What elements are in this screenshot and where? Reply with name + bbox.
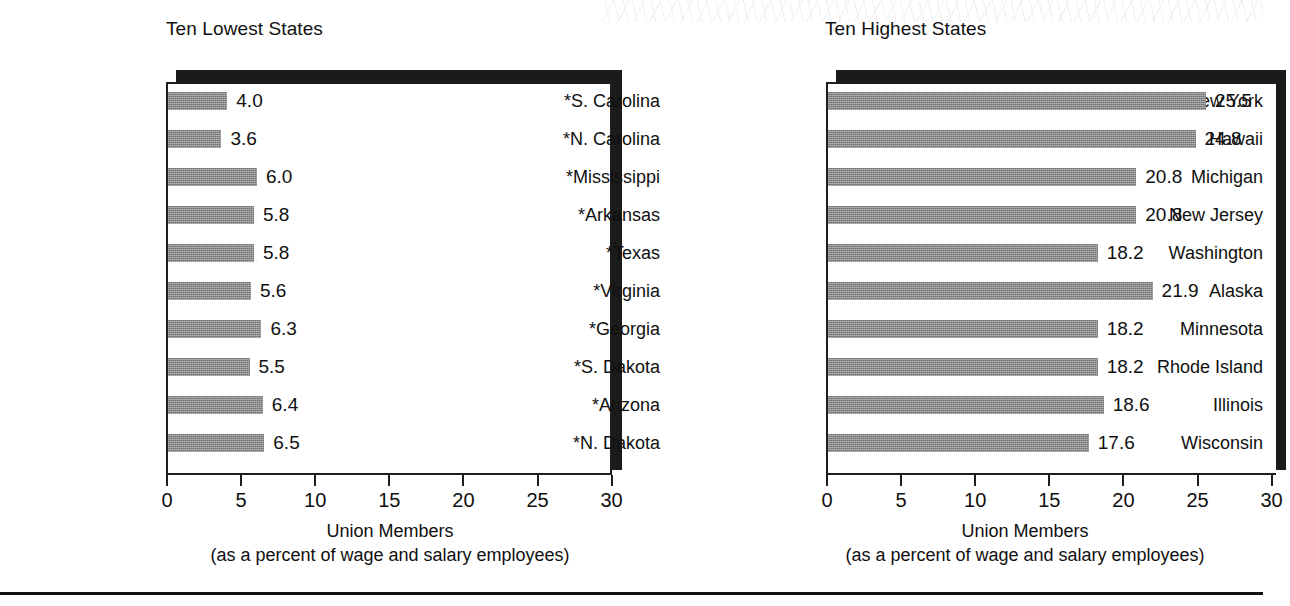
- axis-tick-label: 15: [1026, 489, 1072, 512]
- bar-row: Alaska21.9: [660, 272, 1263, 310]
- axis-tick-label: 10: [952, 489, 998, 512]
- axis-tick-label: 0: [804, 489, 850, 512]
- axis-tick-label: 30: [589, 489, 635, 512]
- bar-row: Wisconsin17.6: [660, 424, 1263, 462]
- axis-tick-label: 20: [440, 489, 486, 512]
- x-axis-caption: Union Members (as a percent of wage and …: [110, 519, 670, 567]
- bar-row: *Georgia6.3: [0, 310, 660, 348]
- bar-row: New Jersey20.8: [660, 196, 1263, 234]
- axis-tick-label: 5: [218, 489, 264, 512]
- bar-value-label: 21.9: [1162, 272, 1199, 310]
- x-axis: 051015202530: [166, 475, 612, 489]
- category-label: *Arkansas: [500, 196, 660, 234]
- bar: [168, 206, 254, 224]
- axis-tick-label: 30: [1249, 489, 1290, 512]
- chart-panel-ten-lowest-states: Ten Lowest States *S. Carolina4.0*N. Car…: [0, 0, 660, 580]
- axis-tick: [974, 475, 976, 486]
- bar-value-label: 6.3: [270, 310, 296, 348]
- x-axis-caption-line1: Union Members: [110, 519, 670, 543]
- category-label: *N. Dakota: [500, 424, 660, 462]
- bar-row: *Virginia5.6: [0, 272, 660, 310]
- bar-row: *N. Dakota6.5: [0, 424, 660, 462]
- bar-value-label: 6.5: [273, 424, 299, 462]
- axis-tick: [388, 475, 390, 486]
- bar: [828, 396, 1104, 414]
- x-axis-caption-line2: (as a percent of wage and salary employe…: [110, 543, 670, 567]
- bar: [168, 434, 264, 452]
- axis-tick: [462, 475, 464, 486]
- bar: [168, 130, 221, 148]
- axis-tick: [900, 475, 902, 486]
- bar: [168, 282, 251, 300]
- bar-value-label: 24.8: [1205, 120, 1242, 158]
- axis-tick: [1048, 475, 1050, 486]
- bar-row: *S. Carolina4.0: [0, 82, 660, 120]
- bar-value-label: 20.8: [1145, 158, 1182, 196]
- axis-tick: [537, 475, 539, 486]
- bar: [828, 130, 1196, 148]
- bar-value-label: 18.6: [1113, 386, 1150, 424]
- bar: [828, 320, 1098, 338]
- bar-row: Illinois18.6: [660, 386, 1263, 424]
- bar-row: Rhode Island18.2: [660, 348, 1263, 386]
- category-label: *Virginia: [500, 272, 660, 310]
- category-label: *Arizona: [500, 386, 660, 424]
- category-label: *N. Carolina: [500, 120, 660, 158]
- bar: [828, 168, 1136, 186]
- bar-row: Hawaii24.8: [660, 120, 1263, 158]
- bar: [168, 396, 263, 414]
- category-label: *Georgia: [500, 310, 660, 348]
- bar: [828, 282, 1153, 300]
- axis-tick: [240, 475, 242, 486]
- chart-title-ten-highest-states: Ten Highest States: [825, 18, 986, 40]
- bar-value-label: 3.6: [230, 120, 256, 158]
- bar-row: Washington18.2: [660, 234, 1263, 272]
- bottom-divider-rule: [0, 592, 1263, 595]
- bar-value-label: 6.0: [266, 158, 292, 196]
- axis-tick-label: 25: [515, 489, 561, 512]
- axis-tick: [1122, 475, 1124, 486]
- bar: [168, 358, 250, 376]
- x-axis-caption-line2: (as a percent of wage and salary employe…: [725, 543, 1290, 567]
- bar-row: Michigan20.8: [660, 158, 1263, 196]
- bar-row: *N. Carolina3.6: [0, 120, 660, 158]
- bar: [828, 206, 1136, 224]
- bar-value-label: 18.2: [1107, 348, 1144, 386]
- axis-tick: [1271, 475, 1273, 486]
- bar-value-label: 6.4: [272, 386, 298, 424]
- axis-tick-label: 5: [878, 489, 924, 512]
- chart-title-ten-lowest-states: Ten Lowest States: [166, 18, 323, 40]
- category-label: *S. Carolina: [500, 82, 660, 120]
- x-axis: 051015202530: [826, 475, 1276, 489]
- axis-tick: [826, 475, 828, 486]
- axis-tick-label: 10: [292, 489, 338, 512]
- bar-value-label: 5.5: [259, 348, 285, 386]
- x-axis-caption: Union Members (as a percent of wage and …: [725, 519, 1290, 567]
- chart-panel-ten-highest-states: Ten Highest States New York25.5Hawaii24.…: [660, 0, 1263, 580]
- bar-rows: New York25.5Hawaii24.8Michigan20.8New Je…: [660, 82, 1263, 462]
- category-label: *S. Dakota: [500, 348, 660, 386]
- bar: [168, 244, 254, 262]
- axis-tick: [166, 475, 168, 486]
- bar-row: *S. Dakota5.5: [0, 348, 660, 386]
- bar: [168, 92, 227, 110]
- bar: [828, 434, 1089, 452]
- bar: [168, 168, 257, 186]
- bar-value-label: 5.8: [263, 234, 289, 272]
- bar-value-label: 5.8: [263, 196, 289, 234]
- bar-value-label: 18.2: [1107, 310, 1144, 348]
- bar-value-label: 5.6: [260, 272, 286, 310]
- bar-row: *Texas5.8: [0, 234, 660, 272]
- axis-tick-label: 15: [366, 489, 412, 512]
- x-axis-caption-line1: Union Members: [725, 519, 1290, 543]
- bar-row: New York25.5: [660, 82, 1263, 120]
- axis-tick: [611, 475, 613, 486]
- category-label: *Mississippi: [500, 158, 660, 196]
- axis-tick: [314, 475, 316, 486]
- bar-value-label: 20.8: [1145, 196, 1182, 234]
- bar-row: *Arkansas5.8: [0, 196, 660, 234]
- bar: [828, 244, 1098, 262]
- bar-rows: *S. Carolina4.0*N. Carolina3.6*Mississip…: [0, 82, 660, 462]
- axis-tick-label: 0: [144, 489, 190, 512]
- bar-value-label: 18.2: [1107, 234, 1144, 272]
